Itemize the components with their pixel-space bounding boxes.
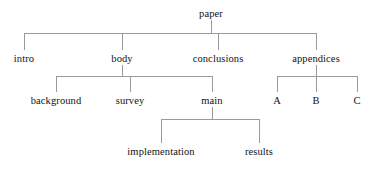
node-paper[interactable]: paper xyxy=(199,9,223,20)
node-results[interactable]: results xyxy=(245,147,273,158)
node-main[interactable]: main xyxy=(201,96,222,107)
tree-node-layer: paper intro body conclusions appendices … xyxy=(0,0,378,173)
node-appendices[interactable]: appendices xyxy=(292,54,340,65)
node-body[interactable]: body xyxy=(111,54,132,65)
tree-diagram: paper intro body conclusions appendices … xyxy=(0,0,378,173)
node-intro[interactable]: intro xyxy=(14,54,34,65)
node-appendix-a[interactable]: A xyxy=(273,96,281,107)
node-implementation[interactable]: implementation xyxy=(127,147,194,158)
node-appendix-c[interactable]: C xyxy=(353,96,360,107)
node-background[interactable]: background xyxy=(31,96,82,107)
node-conclusions[interactable]: conclusions xyxy=(193,54,244,65)
node-survey[interactable]: survey xyxy=(116,96,145,107)
node-appendix-b[interactable]: B xyxy=(312,96,319,107)
